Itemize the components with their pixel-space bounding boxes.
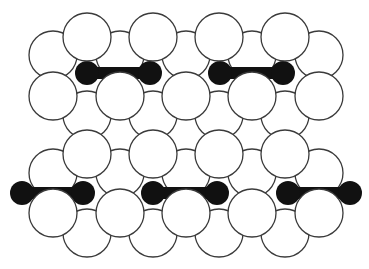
molecule-atom: [10, 181, 34, 205]
front-atom: [228, 72, 276, 120]
molecule-atom: [271, 61, 295, 85]
molecule-atom: [208, 61, 232, 85]
front-atom: [29, 72, 77, 120]
front-atom: [195, 13, 243, 61]
molecule-atom: [338, 181, 362, 205]
molecule-atom: [276, 181, 300, 205]
front-atom: [63, 130, 111, 178]
front-atom: [261, 13, 309, 61]
front-atom: [162, 72, 210, 120]
front-atom: [295, 72, 343, 120]
front-atom: [162, 189, 210, 237]
front-atom: [96, 72, 144, 120]
front-atom: [129, 13, 177, 61]
front-atom: [29, 189, 77, 237]
molecule-atom: [138, 61, 162, 85]
front-atom: [295, 189, 343, 237]
adsorption-diagram: [0, 0, 369, 269]
front-atom: [195, 130, 243, 178]
front-atom: [63, 13, 111, 61]
close-packed-surface-diagram: [0, 0, 369, 269]
molecule-atom: [75, 61, 99, 85]
molecule-atom: [205, 181, 229, 205]
front-atom: [261, 130, 309, 178]
front-atom: [96, 189, 144, 237]
front-atom: [129, 130, 177, 178]
front-atom: [228, 189, 276, 237]
molecule-atom: [141, 181, 165, 205]
